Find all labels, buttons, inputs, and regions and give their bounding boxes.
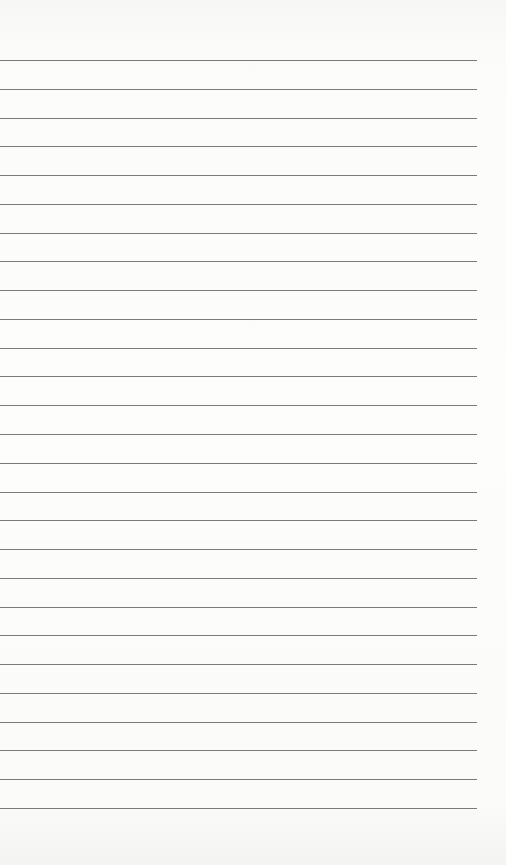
ruled-line [0,261,477,262]
ruled-line [0,578,477,579]
ruled-line [0,376,477,377]
ruled-line [0,693,477,694]
ruled-line [0,233,477,234]
ruled-line [0,520,477,521]
ruled-line [0,204,477,205]
ruled-line [0,463,477,464]
ruled-line [0,664,477,665]
ruled-line [0,348,477,349]
ruled-line [0,492,477,493]
ruled-line [0,319,477,320]
ruled-line [0,607,477,608]
ruled-line [0,175,477,176]
ruled-line [0,405,477,406]
ruled-line [0,750,477,751]
ruled-line [0,808,477,809]
ruled-line [0,146,477,147]
ruled-line [0,635,477,636]
ruled-line [0,89,477,90]
lined-paper-page [0,0,506,865]
ruled-line [0,290,477,291]
ruled-line [0,434,477,435]
ruled-line [0,549,477,550]
ruled-line [0,60,477,61]
ruled-line [0,722,477,723]
ruled-line [0,779,477,780]
ruled-line [0,118,477,119]
